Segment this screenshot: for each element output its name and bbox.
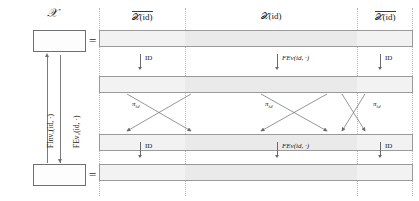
arrow-bottom-1-head — [275, 155, 279, 158]
fev-arrow-shaft — [60, 55, 61, 163]
arrow-top-0-label: ID — [145, 54, 152, 62]
register-row-1 — [99, 30, 413, 47]
column-header-0-label: 𝒳(id) — [132, 11, 153, 22]
permutation-label-1: πid — [265, 100, 272, 109]
arrow-top-0-head — [138, 67, 142, 70]
row-3-middle-segment — [185, 135, 357, 150]
row-1-middle-segment — [185, 31, 357, 46]
equals-sign-top: = — [89, 33, 96, 49]
diagram-canvas: 𝒳 = = FInvᵤ(id, ·) FEvᵤ(id, ·) 𝒳(id) 𝒳(i… — [0, 0, 419, 201]
finv-arrow-label: FInvᵤ(id, ·) — [46, 114, 55, 148]
permutation-label-1-sub: id — [269, 104, 273, 109]
arrow-bottom-2-shaft — [380, 142, 381, 156]
crossing-line-5 — [342, 94, 365, 131]
row-4-middle-segment — [185, 165, 357, 180]
crossing-line-4 — [342, 94, 365, 131]
state-box-top — [33, 30, 86, 52]
register-grid: 𝒳(id) 𝒳(id) 𝒳(id) ID FEv( — [99, 0, 415, 201]
register-row-4 — [99, 164, 413, 181]
register-row-2 — [99, 76, 413, 93]
arrow-bottom-1-shaft — [277, 142, 278, 156]
arrow-top-0-shaft — [140, 54, 141, 68]
permutation-label-2-sub: id — [377, 104, 381, 109]
arrow-top-1-shaft — [277, 54, 278, 68]
state-box-bottom — [33, 164, 86, 186]
permutation-label-0: πid — [132, 100, 139, 109]
column-header-0: 𝒳(id) — [99, 11, 185, 22]
left-object-label: 𝒳 — [47, 6, 57, 20]
permutation-label-0-sub: id — [136, 104, 140, 109]
arrow-bottom-0-label: ID — [145, 142, 152, 150]
finv-arrow-head — [45, 53, 49, 57]
arrow-bottom-2-head — [378, 155, 382, 158]
arrow-bottom-2-label: ID — [385, 142, 392, 150]
arrow-top-2-head — [378, 67, 382, 70]
arrow-bottom-0-head — [138, 155, 142, 158]
arrow-bottom-0-shaft — [140, 142, 141, 156]
arrow-top-1-head — [275, 67, 279, 70]
column-header-1: 𝒳(id) — [185, 11, 357, 22]
equals-sign-bottom: = — [89, 167, 96, 183]
fev-arrow-head — [58, 159, 62, 163]
column-header-2: 𝒳(id) — [357, 11, 413, 22]
column-header-1-label: 𝒳(id) — [261, 11, 282, 21]
column-header-2-label: 𝒳(id) — [375, 11, 396, 22]
arrow-bottom-1-label: FEv(id, ·) — [282, 142, 309, 150]
fev-arrow-label: FEvᵤ(id, ·) — [72, 116, 81, 148]
arrow-top-2-shaft — [380, 54, 381, 68]
arrow-top-2-label: ID — [385, 54, 392, 62]
arrow-top-1-label: FEv(id, ·) — [282, 54, 309, 62]
permutation-label-2: πid — [373, 100, 380, 109]
row-2-middle-segment — [185, 77, 357, 92]
